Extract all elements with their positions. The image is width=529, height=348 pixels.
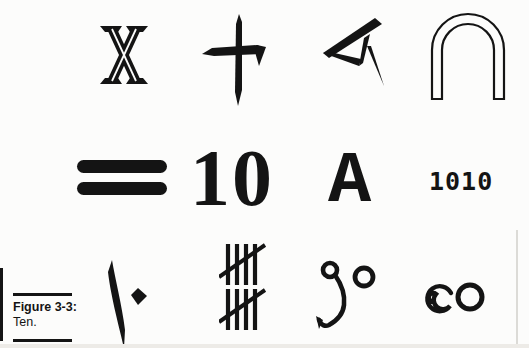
caption-rule-top bbox=[13, 293, 72, 296]
figure-label: Figure 3-3: bbox=[13, 300, 77, 314]
book-figure-page: 10 A 1010 bbox=[0, 0, 529, 348]
margin-bar bbox=[0, 268, 3, 341]
mayan-bar bbox=[77, 182, 167, 195]
page-edge-right bbox=[516, 230, 518, 348]
binary-ten: 1010 bbox=[429, 169, 493, 194]
burmese-ten-icon bbox=[421, 272, 487, 320]
decimal-ten: 10 bbox=[190, 138, 274, 218]
tally-marks-ten-icon bbox=[219, 241, 269, 333]
roman-numeral-ten-icon bbox=[96, 24, 152, 86]
mayan-bars-ten-icon bbox=[77, 160, 167, 195]
egyptian-arch-ten-icon bbox=[428, 8, 508, 102]
caption-rule-bottom bbox=[13, 339, 72, 342]
figure-caption: Ten. bbox=[13, 315, 37, 329]
babylonian-cuneiform-ten-icon bbox=[318, 14, 388, 90]
bengali-ten-icon bbox=[314, 258, 376, 334]
chinese-ten-icon bbox=[202, 14, 274, 106]
hexadecimal-ten: A bbox=[328, 146, 371, 218]
page-edge-bottom bbox=[0, 344, 529, 348]
arabic-indic-ten-icon bbox=[98, 258, 153, 348]
mayan-bar bbox=[77, 160, 167, 173]
